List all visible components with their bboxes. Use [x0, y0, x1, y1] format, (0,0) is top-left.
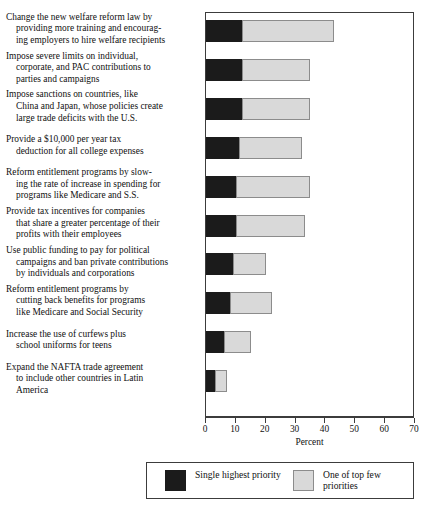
legend-label-one-of-top-few-priorities: One of top few priorities — [323, 469, 381, 492]
x-axis-tick-label: 30 — [280, 424, 310, 434]
category-label: Provide a $10,000 per year tax deduction… — [6, 134, 209, 157]
horizontal-stacked-bar-chart: Change the new welfare reform law by pro… — [0, 0, 427, 505]
bar-segment-one-of-top-few-priorities — [230, 292, 272, 314]
legend-label-single-highest-priority: Single highest priority — [195, 469, 281, 480]
bar-row — [206, 292, 415, 314]
category-label: Provide tax incentives for companies tha… — [6, 206, 209, 241]
category-labels-column: Change the new welfare reform law by pro… — [0, 0, 200, 420]
bar-row — [206, 370, 415, 392]
x-axis-tick-label: 50 — [339, 424, 369, 434]
x-axis-tick-label: 40 — [309, 424, 339, 434]
category-label: Expand the NAFTA trade agreement to incl… — [6, 362, 209, 397]
category-label: Reform entitlement programs by cutting b… — [6, 284, 209, 319]
x-axis-tick-label: 60 — [369, 424, 399, 434]
x-axis-tick-label: 0 — [190, 424, 220, 434]
bar-segment-single-highest-priority — [206, 370, 215, 392]
bar-segment-one-of-top-few-priorities — [239, 137, 302, 159]
category-label: Impose sanctions on countries, like Chin… — [6, 89, 209, 124]
x-axis-tick — [265, 418, 266, 423]
bar-segment-single-highest-priority — [206, 20, 242, 42]
bar-segment-one-of-top-few-priorities — [242, 98, 311, 120]
black-square-swatch — [165, 470, 186, 491]
x-axis-tick-label: 10 — [220, 424, 250, 434]
bar-segment-one-of-top-few-priorities — [233, 253, 266, 275]
bar-segment-single-highest-priority — [206, 59, 242, 81]
bar-segment-single-highest-priority — [206, 98, 242, 120]
gray-square-swatch — [293, 470, 314, 491]
bar-row — [206, 98, 415, 120]
x-axis-tick — [295, 418, 296, 423]
bar-segment-single-highest-priority — [206, 137, 239, 159]
x-axis-tick — [354, 418, 355, 423]
x-axis-tick — [235, 418, 236, 423]
x-axis-tick — [414, 418, 415, 423]
category-label: Change the new welfare reform law by pro… — [6, 12, 209, 47]
bar-segment-one-of-top-few-priorities — [224, 331, 251, 353]
x-axis-tick — [205, 418, 206, 423]
x-axis-title: Percent — [205, 437, 414, 447]
x-axis-tick-label: 70 — [399, 424, 427, 434]
bar-segment-one-of-top-few-priorities — [242, 59, 311, 81]
bar-row — [206, 253, 415, 275]
bar-segment-one-of-top-few-priorities — [215, 370, 227, 392]
bar-row — [206, 137, 415, 159]
legend-item-single-highest-priority: Single highest priority — [165, 469, 281, 491]
x-axis-tick-label: 20 — [250, 424, 280, 434]
category-label: Increase the use of curfews plus school … — [6, 329, 209, 352]
chart-legend: Single highest priority One of top few p… — [146, 462, 414, 499]
bar-segment-one-of-top-few-priorities — [242, 20, 335, 42]
bar-row — [206, 331, 415, 353]
plot-area — [205, 12, 414, 417]
bar-segment-single-highest-priority — [206, 292, 230, 314]
bar-row — [206, 20, 415, 42]
x-axis-tick — [324, 418, 325, 423]
bar-segment-single-highest-priority — [206, 176, 236, 198]
category-label: Use public funding to pay for political … — [6, 245, 209, 280]
bar-segment-single-highest-priority — [206, 215, 236, 237]
category-label: Reform entitlement programs by slow- ing… — [6, 167, 209, 202]
bar-segment-single-highest-priority — [206, 253, 233, 275]
bar-row — [206, 215, 415, 237]
bar-segment-one-of-top-few-priorities — [236, 176, 311, 198]
x-axis-line — [205, 417, 414, 418]
category-label: Impose severe limits on individual, corp… — [6, 51, 209, 86]
legend-item-one-of-top-few-priorities: One of top few priorities — [293, 469, 381, 492]
bar-segment-single-highest-priority — [206, 331, 224, 353]
x-axis-tick — [384, 418, 385, 423]
bar-segment-one-of-top-few-priorities — [236, 215, 305, 237]
bar-row — [206, 176, 415, 198]
bar-row — [206, 59, 415, 81]
